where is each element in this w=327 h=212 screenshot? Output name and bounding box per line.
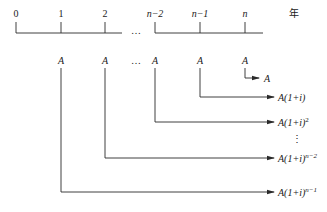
fv-base: A(1+i) xyxy=(277,187,306,199)
arrow-from-1 xyxy=(61,68,274,192)
fv-exponent: n−1 xyxy=(305,186,317,194)
payment-labels: A A … A A A xyxy=(57,55,249,66)
payment-ellipsis: … xyxy=(131,55,141,66)
arrow-from-n xyxy=(245,68,259,78)
fv-vertical-ellipsis: ⋮ xyxy=(292,133,302,144)
payment-label-n-minus-2: A xyxy=(151,55,159,66)
payment-label-1: A xyxy=(57,55,65,66)
tick-label-2: 2 xyxy=(103,8,108,19)
fv-label-n-minus-1: A(1+i) xyxy=(277,92,306,104)
tick-label-n: n xyxy=(243,8,248,19)
fv-label-2: A(1+i)n−2 xyxy=(277,152,318,165)
tick-label-0: 0 xyxy=(14,8,19,19)
compounding-arrows xyxy=(61,68,274,192)
fv-base: A(1+i) xyxy=(277,117,306,129)
payment-label-n-minus-1: A xyxy=(196,55,204,66)
tick-label-1: 1 xyxy=(59,8,64,19)
fv-label-n-minus-2: A(1+i)2 xyxy=(277,116,309,129)
fv-label-n: A xyxy=(263,73,271,84)
tick-label-n-minus-1: n−1 xyxy=(192,8,209,19)
fv-label-1: A(1+i)n−1 xyxy=(277,186,317,199)
timeline-gap-ellipsis: … xyxy=(131,25,141,36)
payment-label-n: A xyxy=(241,55,249,66)
payment-label-2: A xyxy=(101,55,109,66)
arrow-from-n-minus-1 xyxy=(200,68,274,97)
fv-exponent: 2 xyxy=(305,116,309,124)
fv-base: A(1+i) xyxy=(277,92,306,104)
arrow-from-n-minus-2 xyxy=(155,68,274,122)
timeline-axis: … xyxy=(16,22,263,36)
timeline-tick-labels: 0 1 2 n−2 n−1 n 年 xyxy=(14,7,300,19)
fv-base: A(1+i) xyxy=(277,153,306,165)
fv-exponent: n−2 xyxy=(305,152,317,160)
cash-flow-diagram: 0 1 2 n−2 n−1 n 年 … A A … A A A A xyxy=(0,0,327,212)
future-value-labels: A A(1+i) A(1+i)2 ⋮ A(1+i)n−2 A(1+i)n−1 xyxy=(263,73,318,199)
tick-label-n-minus-2: n−2 xyxy=(147,8,164,19)
timeline-unit-label: 年 xyxy=(289,7,299,19)
arrow-from-2 xyxy=(105,68,274,158)
